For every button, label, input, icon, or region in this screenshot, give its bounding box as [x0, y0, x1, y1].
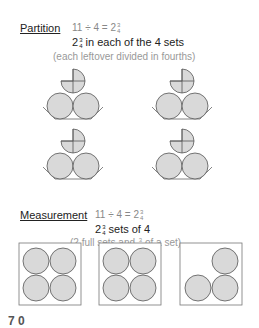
measurement-box-1	[19, 243, 81, 305]
measurement-box-2	[99, 243, 161, 305]
cut-off-page-number: 7 0	[8, 314, 25, 328]
measurement-box-3	[180, 243, 242, 305]
